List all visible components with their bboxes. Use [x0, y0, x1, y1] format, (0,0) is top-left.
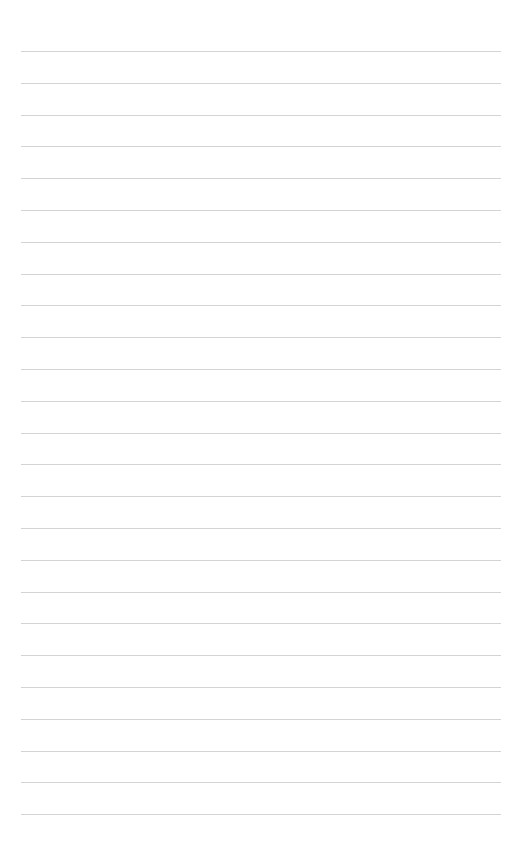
ruled-line — [21, 210, 501, 211]
ruled-line — [21, 751, 501, 752]
ruled-line — [21, 242, 501, 243]
ruled-line — [21, 496, 501, 497]
ruled-line — [21, 719, 501, 720]
ruled-line — [21, 51, 501, 52]
ruled-line — [21, 433, 501, 434]
ruled-line — [21, 146, 501, 147]
ruled-line — [21, 592, 501, 593]
ruled-line — [21, 401, 501, 402]
ruled-line — [21, 528, 501, 529]
ruled-line — [21, 305, 501, 306]
ruled-paper-page — [0, 0, 522, 852]
ruled-line — [21, 623, 501, 624]
ruled-line — [21, 560, 501, 561]
ruled-line — [21, 687, 501, 688]
ruled-line — [21, 274, 501, 275]
ruled-line — [21, 178, 501, 179]
ruled-line — [21, 83, 501, 84]
ruled-line — [21, 782, 501, 783]
ruled-line — [21, 464, 501, 465]
ruled-line — [21, 115, 501, 116]
ruled-line — [21, 655, 501, 656]
ruled-line — [21, 814, 501, 815]
ruled-line — [21, 337, 501, 338]
ruled-line — [21, 369, 501, 370]
